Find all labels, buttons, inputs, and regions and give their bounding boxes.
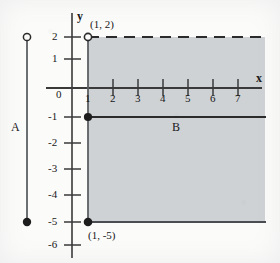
filled-circle-point-1-minus-5 — [84, 218, 93, 227]
x-tick-label-5: 5 — [185, 92, 191, 104]
point-label-top: (1, 2) — [90, 18, 114, 30]
graph-figure: y x 2 1 0 -1 -2 -3 -4 -5 -6 1 2 3 4 5 6 … — [0, 0, 280, 263]
y-tick-label-0: 0 — [56, 88, 62, 100]
y-tick-label-minus-3: -3 — [48, 162, 57, 174]
x-axis-label: x — [256, 71, 262, 86]
y-tick-label-minus-2: -2 — [48, 136, 57, 148]
x-tick-label-3: 3 — [135, 92, 141, 104]
segment-a-filled-endpoint — [23, 218, 31, 226]
x-tick-label-4: 4 — [160, 92, 166, 104]
region-b-label: B — [172, 120, 180, 135]
segment-a-open-endpoint — [23, 33, 30, 40]
x-tick-label-2: 2 — [110, 92, 116, 104]
y-tick-label-minus-4: -4 — [48, 188, 57, 200]
y-tick-label-1: 1 — [52, 52, 58, 64]
open-circle-point-1-2 — [84, 33, 91, 40]
x-tick-label-6: 6 — [210, 92, 216, 104]
y-axis-label: y — [77, 9, 83, 24]
segment-a-label: A — [11, 120, 20, 135]
y-tick-label-2: 2 — [52, 30, 58, 42]
y-tick-label-minus-6: -6 — [48, 238, 57, 250]
y-tick-label-minus-1: -1 — [48, 110, 57, 122]
filled-circle-point-1-minus-1 — [84, 113, 92, 121]
x-tick-label-7: 7 — [235, 92, 241, 104]
x-tick-label-1: 1 — [85, 92, 91, 104]
y-tick-label-minus-5: -5 — [48, 215, 57, 227]
point-label-bottom: (1, -5) — [88, 229, 116, 241]
coordinate-plane-svg — [0, 0, 280, 263]
